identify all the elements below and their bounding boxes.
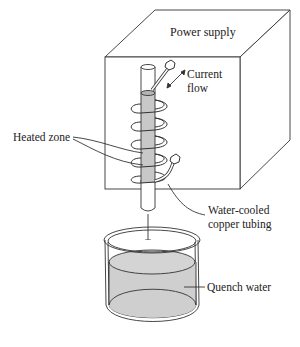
copper-tubing-label-line1: Water-cooled	[208, 204, 269, 217]
power-supply-label: Power supply	[170, 26, 236, 39]
apparatus-drawing	[0, 0, 300, 347]
quench-beaker	[104, 227, 200, 322]
current-flow-label-line1: Current	[187, 68, 222, 81]
quench-water-label: Quench water	[207, 281, 271, 294]
current-flow-label-line2: flow	[187, 82, 208, 95]
diagram: Power supply Current flow Heated zone Wa…	[0, 0, 300, 347]
heated-zone-label: Heated zone	[13, 131, 70, 144]
copper-tubing-label-line2: copper tubing	[208, 218, 272, 231]
